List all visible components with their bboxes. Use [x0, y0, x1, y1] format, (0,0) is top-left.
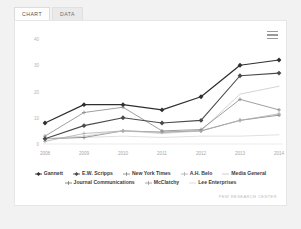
legend-marker-icon: [123, 171, 130, 177]
data-point-marker: [277, 71, 282, 76]
legend-label: Journal Communications: [74, 180, 135, 185]
legend-item-media-general[interactable]: Media General: [222, 171, 266, 177]
series-line: [45, 60, 279, 123]
x-axis-tick-label: 2012: [196, 151, 207, 156]
legend-label: A.H. Belo: [190, 171, 213, 176]
series-new-york-times: [43, 97, 281, 138]
legend-marker-icon: [145, 180, 152, 186]
legend-row: GannettE.W. ScrippsNew York TimesA.H. Be…: [30, 171, 271, 177]
x-axis-tick-label: 2009: [79, 151, 90, 156]
x-axis-tick-label: 2014: [274, 151, 285, 156]
chart-legend: GannettE.W. ScrippsNew York TimesA.H. Be…: [15, 171, 286, 186]
data-point-marker: [160, 107, 165, 112]
legend-marker-icon: [35, 171, 42, 177]
y-axis-tick-label: 20: [34, 90, 40, 95]
plot-area: 0102030402008200920102011201220132014: [15, 29, 288, 169]
data-point-marker: [82, 102, 87, 107]
legend-label: Gannett: [44, 171, 63, 176]
tab-chart-label: CHART: [22, 11, 42, 17]
data-point-marker: [160, 121, 165, 126]
y-axis-tick-label: 40: [34, 37, 40, 42]
legend-item-gannett[interactable]: Gannett: [35, 171, 63, 177]
data-point-marker: [121, 115, 126, 120]
legend-item-e-w-scripps[interactable]: E.W. Scripps: [73, 171, 113, 177]
series-gannett: [43, 58, 282, 126]
legend-label: E.W. Scripps: [82, 171, 113, 176]
chart-page: CHART DATA 01020304020082009201020112012…: [0, 0, 301, 229]
legend-diamond: [36, 172, 40, 176]
x-axis-tick-label: 2010: [118, 151, 129, 156]
y-axis-tick-label: 30: [34, 63, 40, 68]
legend-item-mcclatchy[interactable]: McClatchy: [145, 180, 179, 186]
attribution-text: PEW RESEARCH CENTER: [219, 194, 277, 199]
x-axis-tick-label: 2013: [235, 151, 246, 156]
legend-label: Lee Enterprises: [198, 180, 236, 185]
tab-data-label: DATA: [60, 11, 75, 17]
legend-item-lee-enterprises[interactable]: Lee Enterprises: [189, 180, 236, 186]
legend-marker-icon: [181, 171, 188, 177]
legend-item-a-h-belo[interactable]: A.H. Belo: [181, 171, 213, 177]
y-axis-tick-label: 0: [36, 142, 39, 147]
data-point-marker: [43, 121, 48, 126]
legend-marker-icon: [65, 180, 72, 186]
x-axis-tick-label: 2011: [157, 151, 167, 156]
data-point-marker: [277, 58, 282, 63]
x-axis-tick-label: 2008: [40, 151, 51, 156]
legend-label: New York Times: [132, 171, 171, 176]
data-point-marker: [121, 102, 126, 107]
legend-label: McClatchy: [154, 180, 179, 185]
legend-label: Media General: [231, 171, 266, 176]
legend-item-new-york-times[interactable]: New York Times: [123, 171, 171, 177]
line-chart: 0102030402008200920102011201220132014: [15, 29, 288, 169]
legend-item-journal-communications[interactable]: Journal Communications: [65, 180, 135, 186]
data-point-marker: [82, 123, 87, 128]
chart-card: 0102030402008200920102011201220132014 Ga…: [14, 20, 287, 206]
data-point-marker: [43, 136, 48, 141]
y-axis-tick-label: 10: [34, 116, 40, 121]
legend-diamond: [75, 172, 79, 176]
legend-row: Journal CommunicationsMcClatchyLee Enter…: [60, 180, 242, 186]
legend-marker-icon: [222, 171, 229, 177]
legend-marker-icon: [189, 180, 196, 186]
legend-marker-icon: [73, 171, 80, 177]
